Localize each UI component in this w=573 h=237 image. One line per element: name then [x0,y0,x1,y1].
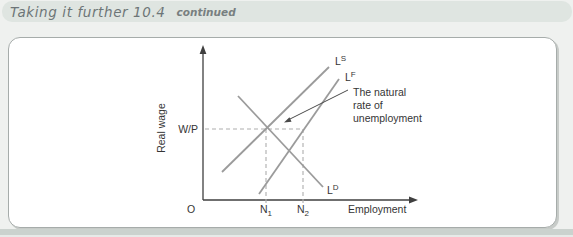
n2-tick-label: N2 [297,203,310,218]
wage-level-label: W/P [178,123,198,135]
annotation-arrowhead-icon [284,117,292,122]
page-bottom-strip [0,235,573,237]
labour-supply-label: LS [335,54,346,67]
x-axis-label: Employment [348,203,406,215]
y-axis-label: Real wage [155,103,167,153]
annotation-line-2: rate of [353,99,383,111]
labour-demand-label: LD [327,183,339,196]
labour-demand-curve [238,96,323,187]
labour-market-diagram: Real wage Employment W/P LS LF LD O N1 N… [9,38,555,226]
labour-supply-curve [222,67,329,172]
section-title: Taking it further 10.4 [10,4,166,20]
annotation-line-1: The natural [353,86,406,98]
textbook-page: Taking it further 10.4 continued Real wa… [0,0,573,237]
n1-tick-label: N1 [260,203,273,218]
annotation-arrow-line [287,90,348,121]
figure-panel: Real wage Employment W/P LS LF LD O N1 N… [8,37,557,228]
section-header-bar: Taking it further 10.4 continued [2,1,572,22]
labour-force-label: LF [345,70,356,83]
y-axis-arrowhead-icon [200,45,207,54]
annotation-line-3: unemployment [353,112,422,124]
origin-label: O [187,203,195,215]
x-axis-arrowhead-icon [409,197,418,204]
continued-label: continued [177,6,236,18]
